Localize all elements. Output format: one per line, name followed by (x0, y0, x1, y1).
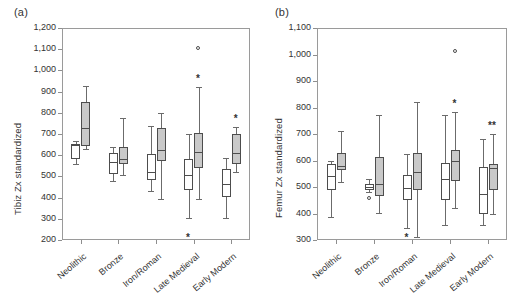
y-tick-label: 800 (18, 107, 56, 117)
y-tick-mark (313, 28, 317, 29)
whisker-cap (338, 182, 344, 183)
y-tick-label: 1,100 (273, 22, 311, 32)
whisker-cap (158, 113, 164, 114)
whisker-cap (490, 134, 496, 135)
y-tick-mark (58, 155, 62, 156)
whisker-cap (480, 139, 486, 140)
median-line (413, 172, 422, 173)
whisker-cap (83, 86, 89, 87)
whisker-cap (110, 147, 116, 148)
median-line (147, 172, 156, 173)
whisker-cap (480, 225, 486, 226)
whisker-cap (338, 131, 344, 132)
whisker-cap (376, 115, 382, 116)
x-tick-mark (81, 240, 82, 244)
y-tick-label: 300 (18, 213, 56, 223)
box-iqr (327, 164, 336, 191)
box-iqr (157, 128, 166, 161)
y-tick-label: 600 (273, 155, 311, 165)
y-tick-mark (58, 134, 62, 135)
y-tick-mark (313, 240, 317, 241)
box-iqr (441, 163, 450, 200)
box-iqr (194, 133, 203, 168)
significance-asterisk: * (196, 75, 200, 83)
median-line (441, 179, 450, 180)
whisker-cap (414, 237, 420, 238)
panel-b: (b) Femur Zx standardized 30040050060070… (261, 0, 521, 305)
significance-asterisk: * (186, 234, 190, 242)
y-tick-label: 1,000 (18, 64, 56, 74)
y-tick-label: 900 (273, 75, 311, 85)
whisker-cap (196, 199, 202, 200)
whisker-cap (223, 218, 229, 219)
box-iqr (81, 102, 90, 145)
whisker-cap (186, 218, 192, 219)
y-tick-mark (313, 55, 317, 56)
whisker-cap (452, 208, 458, 209)
y-tick-mark (58, 49, 62, 50)
whisker-cap (83, 149, 89, 150)
y-tick-label: 1,200 (18, 22, 56, 32)
x-tick-mark (231, 240, 232, 244)
box-iqr (451, 150, 460, 181)
outlier-point (453, 49, 457, 53)
x-tick-mark (194, 240, 195, 244)
y-tick-mark (313, 108, 317, 109)
whisker-cap (223, 158, 229, 159)
median-line (327, 176, 336, 177)
whisker-cap (442, 225, 448, 226)
whisker-cap (73, 141, 79, 142)
y-tick-mark (313, 187, 317, 188)
y-tick-label: 200 (18, 234, 56, 244)
box-iqr (71, 144, 80, 159)
median-line (157, 150, 166, 151)
whisker-cap (196, 87, 202, 88)
y-tick-label: 700 (273, 128, 311, 138)
median-line (109, 162, 118, 163)
median-line (489, 168, 498, 169)
y-tick-label: 700 (18, 128, 56, 138)
whisker-cap (186, 134, 192, 135)
y-tick-mark (58, 176, 62, 177)
median-line (365, 187, 374, 188)
y-tick-mark (313, 161, 317, 162)
y-tick-label: 600 (18, 149, 56, 159)
y-tick-mark (313, 81, 317, 82)
whisker-cap (414, 102, 420, 103)
y-tick-label: 800 (273, 102, 311, 112)
x-tick-mark (488, 240, 489, 244)
y-tick-mark (58, 28, 62, 29)
whisker-cap (120, 118, 126, 119)
y-tick-mark (58, 113, 62, 114)
whisker-cap (148, 191, 154, 192)
whisker-cap (366, 192, 372, 193)
median-line (119, 159, 128, 160)
box-iqr (109, 153, 118, 174)
whisker-cap (404, 228, 410, 229)
y-tick-mark (313, 134, 317, 135)
whisker-cap (233, 127, 239, 128)
box-iqr (375, 157, 384, 196)
whisker-cap (376, 213, 382, 214)
whisker-cap (110, 181, 116, 182)
median-line (479, 194, 488, 195)
y-tick-label: 300 (273, 234, 311, 244)
panel-a-label: (a) (14, 6, 28, 18)
y-tick-label: 400 (273, 208, 311, 218)
significance-asterisk: * (405, 234, 409, 242)
median-line (337, 166, 346, 167)
y-tick-mark (58, 219, 62, 220)
median-line (403, 188, 412, 189)
box-iqr (337, 153, 346, 170)
x-tick-mark (118, 240, 119, 244)
x-tick-mark (374, 240, 375, 244)
box-iqr (147, 154, 156, 180)
y-tick-label: 400 (18, 192, 56, 202)
x-tick-mark (412, 240, 413, 244)
median-line (71, 145, 80, 146)
whisker-cap (158, 199, 164, 200)
y-tick-mark (58, 198, 62, 199)
y-tick-label: 1,100 (18, 43, 56, 53)
panel-a: (a) Tibiz Zx standardized 20030040050060… (0, 0, 260, 305)
box-iqr (232, 134, 241, 165)
